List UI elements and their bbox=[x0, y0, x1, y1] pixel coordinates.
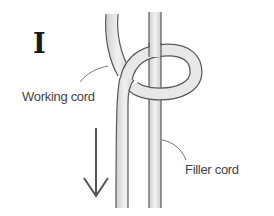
working-cord-leader bbox=[80, 66, 108, 82]
filler-cord-label: Filler cord bbox=[185, 162, 239, 177]
working-cord-lower bbox=[116, 78, 134, 208]
filler-cord-leader bbox=[162, 140, 186, 160]
filler-cord-front bbox=[149, 43, 161, 57]
knot-illustration bbox=[0, 0, 274, 216]
working-cord-label: Working cord bbox=[22, 89, 95, 104]
arrow-down-icon bbox=[84, 128, 108, 196]
filler-cord bbox=[149, 12, 161, 208]
